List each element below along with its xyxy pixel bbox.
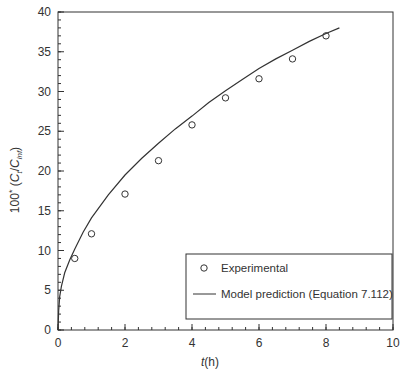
x-tick-label: 6 [256, 336, 263, 350]
y-axis-title-prefix: 100 [8, 193, 22, 213]
x-tick-label: 0 [55, 336, 62, 350]
x-tick-label: 2 [122, 336, 129, 350]
data-point [189, 122, 195, 128]
experimental-points [72, 33, 330, 262]
data-point [72, 255, 78, 261]
y-axis-title-open: ( [8, 182, 22, 189]
x-tick-label: 4 [189, 336, 196, 350]
y-tick-label: 25 [38, 124, 52, 138]
data-point [88, 231, 94, 237]
y-axis-title: 100* (Ct/Cinf) [7, 147, 24, 213]
legend-label-model: Model prediction (Equation 7.112) [221, 288, 393, 300]
x-tick-label: 10 [386, 336, 400, 350]
data-point [256, 76, 262, 82]
y-tick-label: 0 [44, 323, 51, 337]
y-tick-label: 20 [38, 164, 52, 178]
x-tick-label: 8 [323, 336, 330, 350]
data-point [289, 56, 295, 62]
y-axis-title-c2: C [8, 159, 22, 168]
y-tick-label: 5 [44, 283, 51, 297]
y-tick-label: 40 [38, 5, 52, 19]
y-tick-label: 30 [38, 85, 52, 99]
y-tick-label: 15 [38, 204, 52, 218]
chart: 02468100510152025303540 t(h) 100* (Ct/Ci… [0, 0, 411, 378]
data-point [222, 95, 228, 101]
legend-label-experimental: Experimental [221, 262, 288, 274]
legend-box [186, 254, 392, 319]
y-axis-title-c1: C [8, 173, 22, 182]
y-axis-title-close: ) [8, 147, 22, 151]
y-tick-label: 35 [38, 45, 52, 59]
legend: Experimental Model prediction (Equation … [186, 254, 393, 319]
data-point [155, 157, 161, 163]
x-axis-title-unit: (h) [204, 355, 219, 369]
y-tick-label: 10 [38, 244, 52, 258]
x-axis-title: t(h) [201, 355, 219, 369]
data-point [122, 191, 128, 197]
